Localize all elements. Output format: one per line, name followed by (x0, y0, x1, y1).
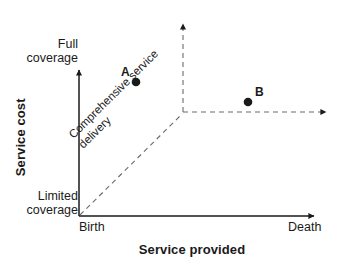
x-axis-end-tick-label: Death (288, 220, 321, 234)
figure-canvas: Full coverage Limited coverage Birth Dea… (0, 0, 350, 265)
data-point-b-label: B (255, 86, 264, 99)
data-point-b[interactable] (244, 98, 253, 107)
y-axis-top-tick-label: Full coverage (8, 37, 78, 65)
y-axis-bottom-tick-label: Limited coverage (4, 189, 78, 217)
y-axis-bottom-tick-label-line2: coverage (4, 203, 78, 217)
x-axis-title: Service provided (122, 243, 262, 258)
y-axis-top-tick-label-line1: Full (8, 37, 78, 51)
y-axis-title: Service cost (14, 94, 29, 180)
y-axis-top-tick-label-line2: coverage (8, 51, 78, 65)
y-axis-bottom-tick-label-line1: Limited (4, 189, 78, 203)
x-axis-start-tick-label: Birth (79, 220, 105, 234)
